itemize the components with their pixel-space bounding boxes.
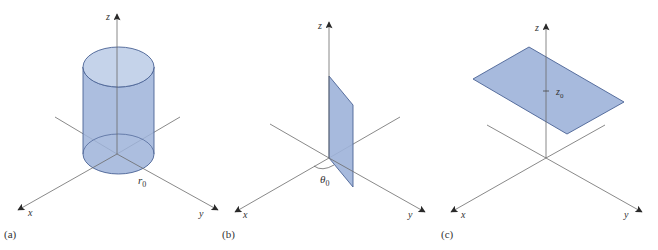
y-axis-label: y xyxy=(407,209,413,220)
half-plane-surface xyxy=(329,76,353,187)
panel-a-cylinder: z x y r0 (a) xyxy=(4,11,218,241)
x-axis-label: x xyxy=(242,209,248,220)
x-axis-arrow xyxy=(235,158,329,212)
y-axis-arrow xyxy=(329,158,425,212)
horizontal-plane-surface xyxy=(473,47,624,134)
negative-x-axis-line xyxy=(487,125,546,158)
x-axis-arrow xyxy=(18,154,117,210)
y-axis-arrow xyxy=(117,154,218,210)
theta-label: θ0 xyxy=(320,173,329,188)
theta-angle-arc xyxy=(314,165,334,169)
x-axis-arrow xyxy=(451,158,546,212)
z-axis-label: z xyxy=(534,22,539,33)
panel-label-a: (a) xyxy=(4,228,17,241)
panel-b-half-plane: z x y θ0 (b) xyxy=(222,20,425,241)
x-axis-label: x xyxy=(460,209,466,220)
panel-label-b: (b) xyxy=(222,228,235,241)
negative-x-axis-line xyxy=(270,124,329,158)
x-axis-label: x xyxy=(27,207,33,218)
z-axis-label: z xyxy=(105,11,110,22)
negative-y-axis-line xyxy=(546,125,605,158)
radius-label: r0 xyxy=(138,174,146,189)
y-axis-label: y xyxy=(623,209,629,220)
y-axis-arrow xyxy=(546,158,642,212)
coordinate-surfaces-figure: z x y r0 (a) z x y θ0 (b) z x y z0 (c) xyxy=(0,0,658,250)
z-axis-label: z xyxy=(317,20,322,31)
y-axis-label: y xyxy=(198,208,204,219)
panel-c-horizontal-plane: z x y z0 (c) xyxy=(441,22,642,241)
panel-label-c: (c) xyxy=(441,228,454,241)
